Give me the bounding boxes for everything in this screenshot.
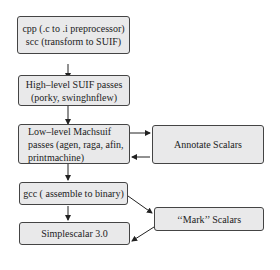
node-simplescalar: Simplescalar 3.0 [19, 222, 130, 245]
node-cpp-line1: cpp (.c to .i preprocessor) [22, 22, 124, 35]
node-high-level-line1: High–level SUIF passes [26, 78, 123, 91]
node-high-level-line2: (porky, swinghnflew) [31, 91, 117, 104]
node-simplescalar-label: Simplescalar 3.0 [41, 227, 108, 240]
node-mark-label: ‘‘Mark’’ Scalars [177, 213, 241, 226]
node-cpp-scc: cpp (.c to .i preprocessor) scc (transfo… [17, 16, 130, 54]
node-high-level-suif: High–level SUIF passes (porky, swinghnfl… [18, 75, 130, 106]
node-gcc-label: gcc ( assemble to binary) [23, 187, 124, 200]
node-annotate-label: Annotate Scalars [174, 138, 242, 151]
node-low-level-line1: Low–level Machsuif [28, 125, 111, 138]
node-cpp-line2: scc (transform to SUIF) [26, 35, 121, 48]
node-low-level-line2: passes (agen, raga, afin, [28, 138, 124, 151]
node-annotate-scalars: Annotate Scalars [152, 125, 264, 164]
node-gcc: gcc ( assemble to binary) [19, 182, 128, 205]
node-mark-scalars: ‘‘Mark’’ Scalars [154, 207, 264, 231]
node-low-level-line3: printmachine) [28, 151, 84, 164]
node-low-level-machsuif: Low–level Machsuif passes (agen, raga, a… [18, 124, 130, 164]
